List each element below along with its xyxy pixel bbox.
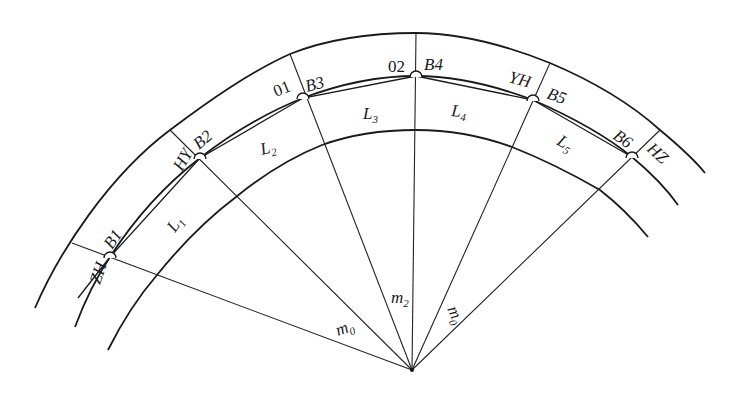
label-b3: B3 <box>303 73 326 96</box>
label-b6: B6 <box>610 126 637 153</box>
marker-b1 <box>104 252 116 258</box>
label-b1: B1 <box>100 226 126 252</box>
radial-line-zh <box>72 243 412 370</box>
label-l4: L4 <box>449 101 467 123</box>
label-02: 02 <box>388 57 405 76</box>
label-l1: L1 <box>162 212 188 237</box>
label-l3: L3 <box>362 104 378 125</box>
label-m0-left: m0 <box>333 316 357 342</box>
marker-b5 <box>527 95 539 101</box>
label-l2: L2 <box>257 137 278 162</box>
label-l5: L5 <box>552 131 577 157</box>
label-b4: B4 <box>424 55 443 74</box>
label-01: 01 <box>270 77 293 101</box>
radial-line-02 <box>412 33 416 370</box>
radial-line-hz <box>412 130 660 370</box>
label-m0-right: m0 <box>442 303 469 328</box>
radial-line-hy <box>170 130 412 370</box>
label-m2: m2 <box>391 288 409 309</box>
label-b5: B5 <box>545 84 569 108</box>
label-hy: HY <box>169 144 198 175</box>
label-yh: YH <box>507 68 535 92</box>
radial-line-01 <box>290 54 412 370</box>
radial-line-yh <box>412 63 550 370</box>
apex-point <box>410 368 414 372</box>
marker-b4 <box>410 71 422 77</box>
curve-diagram: B1 B2 B3 B4 B5 B6 ZH HY 01 02 YH HZ L1 L… <box>0 0 731 396</box>
marker-b6 <box>626 152 638 158</box>
